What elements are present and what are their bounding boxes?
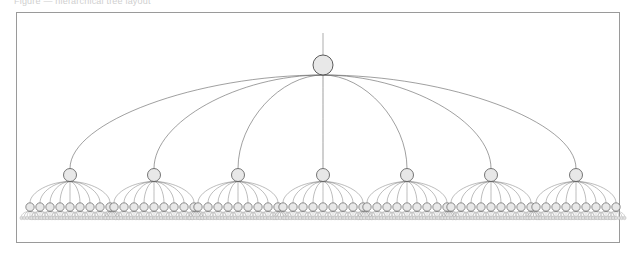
level1-node bbox=[148, 169, 161, 182]
level1-link bbox=[30, 182, 70, 203]
level1-link bbox=[323, 182, 353, 203]
root-node-group bbox=[313, 33, 333, 75]
level2-node bbox=[413, 203, 421, 211]
level1-link bbox=[154, 182, 184, 203]
level2-node bbox=[339, 203, 347, 211]
root-link bbox=[323, 75, 407, 169]
level1-link bbox=[397, 182, 407, 203]
level1-link bbox=[407, 182, 417, 203]
level2-node bbox=[602, 203, 610, 211]
level2-node bbox=[66, 203, 74, 211]
root-node bbox=[313, 55, 333, 75]
level1-node bbox=[232, 169, 245, 182]
level1-link bbox=[367, 182, 407, 203]
level2-node bbox=[582, 203, 590, 211]
level1-link bbox=[546, 182, 576, 203]
level2-node bbox=[56, 203, 64, 211]
level2-node bbox=[457, 203, 465, 211]
level1-link bbox=[293, 182, 323, 203]
level1-link bbox=[313, 182, 323, 203]
level2-node bbox=[194, 203, 202, 211]
level1-link bbox=[208, 182, 238, 203]
level2-node bbox=[76, 203, 84, 211]
level2-node bbox=[234, 203, 242, 211]
level2-node bbox=[204, 203, 212, 211]
level2-node bbox=[373, 203, 381, 211]
level2-node bbox=[180, 203, 188, 211]
level2-node bbox=[289, 203, 297, 211]
level2-node bbox=[552, 203, 560, 211]
level1-link bbox=[238, 182, 278, 203]
level2-node bbox=[487, 203, 495, 211]
level2-node bbox=[349, 203, 357, 211]
level1-node bbox=[485, 169, 498, 182]
level2-node bbox=[592, 203, 600, 211]
level1-link bbox=[491, 182, 531, 203]
level2-node bbox=[96, 203, 104, 211]
root-link bbox=[323, 75, 576, 169]
level1-link bbox=[323, 182, 363, 203]
level1-link bbox=[198, 182, 238, 203]
level2-node bbox=[160, 203, 168, 211]
level1-link bbox=[407, 182, 437, 203]
level2-node bbox=[507, 203, 515, 211]
level1-node bbox=[401, 169, 414, 182]
tree-diagram bbox=[0, 0, 641, 256]
leaf-node bbox=[623, 216, 626, 219]
level1-link bbox=[451, 182, 491, 203]
level2-node bbox=[46, 203, 54, 211]
level1-link bbox=[407, 182, 447, 203]
level1-link bbox=[283, 182, 323, 203]
level2-to-level3-links bbox=[22, 211, 625, 216]
level1-link bbox=[154, 182, 164, 203]
level1-link bbox=[114, 182, 154, 203]
level1-link bbox=[576, 182, 616, 203]
level2-node bbox=[244, 203, 252, 211]
root-link bbox=[154, 75, 323, 169]
level2-node bbox=[403, 203, 411, 211]
level2-node bbox=[170, 203, 178, 211]
level1-link bbox=[144, 182, 154, 203]
root-link bbox=[70, 75, 323, 169]
level1-link bbox=[228, 182, 238, 203]
level2-node bbox=[467, 203, 475, 211]
level2-node bbox=[279, 203, 287, 211]
root-to-level1-links bbox=[70, 75, 576, 169]
level2-node bbox=[497, 203, 505, 211]
level2-node bbox=[383, 203, 391, 211]
level1-link bbox=[124, 182, 154, 203]
level2-node bbox=[517, 203, 525, 211]
level2-node bbox=[562, 203, 570, 211]
level2-nodes bbox=[26, 203, 620, 211]
level2-node bbox=[110, 203, 118, 211]
level2-node bbox=[393, 203, 401, 211]
level2-node bbox=[150, 203, 158, 211]
level2-node bbox=[612, 203, 620, 211]
level2-node bbox=[140, 203, 148, 211]
level1-node bbox=[64, 169, 77, 182]
level2-node bbox=[542, 203, 550, 211]
level2-node bbox=[130, 203, 138, 211]
level2-node bbox=[86, 203, 94, 211]
level1-link bbox=[238, 182, 248, 203]
level2-node bbox=[309, 203, 317, 211]
level1-link bbox=[323, 182, 333, 203]
level2-node bbox=[363, 203, 371, 211]
level2-node bbox=[319, 203, 327, 211]
level2-node bbox=[120, 203, 128, 211]
level1-link bbox=[491, 182, 521, 203]
level2-node bbox=[224, 203, 232, 211]
level1-link bbox=[491, 182, 501, 203]
level1-link bbox=[70, 182, 80, 203]
level1-link bbox=[238, 182, 268, 203]
level1-link bbox=[461, 182, 491, 203]
level2-node bbox=[254, 203, 262, 211]
level1-link bbox=[481, 182, 491, 203]
level1-node bbox=[570, 169, 583, 182]
level2-node bbox=[423, 203, 431, 211]
level2-node bbox=[26, 203, 34, 211]
level2-node bbox=[532, 203, 540, 211]
level2-node bbox=[447, 203, 455, 211]
root-link bbox=[238, 75, 323, 169]
level2-node bbox=[264, 203, 272, 211]
